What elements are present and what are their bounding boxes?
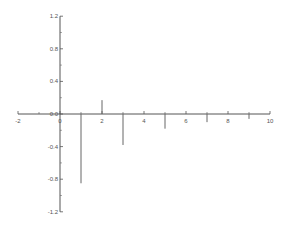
x-tick-label: 10 [267, 118, 274, 124]
x-tick-label: 8 [226, 118, 230, 124]
y-tick-label: 0.8 [50, 46, 59, 52]
y-tick-label: 0.0 [50, 111, 59, 117]
y-tick-label: -1.2 [48, 209, 59, 215]
x-tick-label: 0 [58, 118, 62, 124]
stem-chart: -202468101.20.80.40.0-0.4-0.8-1.2 [0, 0, 288, 231]
y-tick-label: -0.4 [48, 144, 59, 150]
x-tick-label: 4 [142, 118, 146, 124]
x-tick-label: 2 [100, 118, 104, 124]
x-tick-label: 6 [184, 118, 188, 124]
y-tick-label: 1.2 [50, 13, 59, 19]
y-tick-label: 0.4 [50, 78, 59, 84]
y-tick-label: -0.8 [48, 176, 59, 182]
x-tick-label: -2 [15, 118, 21, 124]
